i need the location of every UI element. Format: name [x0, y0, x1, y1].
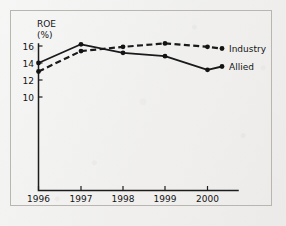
data-point-industry-1997: [79, 49, 84, 54]
data-series-layer: [36, 41, 224, 74]
y-tick-label-14: 14: [23, 59, 35, 69]
roe-line-chart: ROE (%) 16 14 12 10 1: [0, 0, 286, 226]
x-tick-label-1999: 1999: [154, 194, 177, 204]
x-tick-label-1997: 1997: [70, 194, 93, 204]
axis-lines: [39, 44, 239, 191]
x-axis-tick-labels: 1996 1997 1998 1999 2000: [27, 194, 219, 204]
legend-marker-industry: [220, 46, 225, 51]
y-tick-label-16: 16: [23, 42, 35, 52]
data-point-allied-1996: [36, 61, 41, 66]
chart-figure: ROE (%) 16 14 12 10 1: [0, 0, 286, 226]
axis-l-shape: [39, 44, 239, 191]
x-tick-label-1996: 1996: [27, 194, 50, 204]
x-tick-label-1998: 1998: [112, 194, 135, 204]
data-point-industry-1996: [36, 69, 41, 74]
series-line-allied: [39, 44, 223, 70]
data-point-industry-1998: [121, 44, 126, 49]
data-point-allied-2000: [205, 67, 210, 72]
data-point-allied-1998: [121, 50, 126, 55]
series-line-industry: [39, 43, 223, 71]
data-point-industry-2000: [205, 44, 210, 49]
y-tick-label-12: 12: [23, 76, 34, 86]
legend-marker-allied: [220, 64, 225, 69]
y-axis-title-line1: ROE: [37, 19, 56, 29]
data-point-allied-1999: [163, 54, 168, 59]
legend: Industry Allied: [229, 44, 267, 72]
legend-label-allied: Allied: [229, 62, 254, 72]
y-tick-label-10: 10: [23, 93, 35, 103]
legend-label-industry: Industry: [229, 44, 267, 54]
data-point-industry-1999: [163, 41, 168, 46]
data-point-allied-1997: [79, 42, 84, 47]
y-axis-tick-labels: 16 14 12 10: [23, 42, 35, 103]
x-tick-label-2000: 2000: [196, 194, 219, 204]
y-axis-title-line2: (%): [37, 30, 53, 40]
